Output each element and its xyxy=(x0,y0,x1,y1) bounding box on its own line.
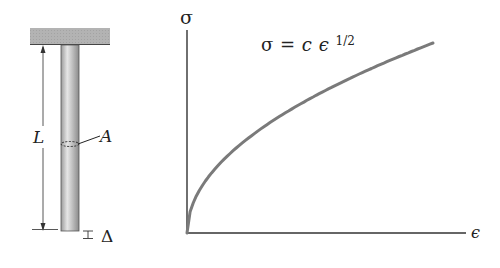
ceiling-support xyxy=(30,28,110,44)
diagram-canvas: L A Δ σ ϵ σ = c ϵ 1/2 xyxy=(0,0,500,268)
elongation-indicator xyxy=(83,231,93,239)
rod xyxy=(61,45,79,231)
equation-lhs: σ xyxy=(261,34,273,55)
area-leader-line xyxy=(78,136,100,144)
equation-label: σ = c ϵ 1/2 xyxy=(261,34,355,55)
equation-equals: = xyxy=(280,34,295,55)
equation-coefficient: c xyxy=(302,34,312,55)
equation-exponent: 1/2 xyxy=(336,34,355,48)
y-axis-label: σ xyxy=(180,6,193,28)
area-label: A xyxy=(98,126,112,146)
power-law-curve xyxy=(187,43,433,233)
x-axis-label: ϵ xyxy=(471,223,480,242)
bar-figure: L A Δ xyxy=(30,28,113,246)
stress-strain-graph: σ ϵ σ = c ϵ 1/2 xyxy=(180,6,480,242)
length-label: L xyxy=(32,127,44,147)
equation-variable: ϵ xyxy=(319,34,329,55)
arrow-up-icon xyxy=(41,45,46,53)
elongation-label: Δ xyxy=(101,226,113,246)
